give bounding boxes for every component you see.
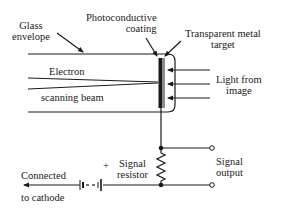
junction-dot-top [159, 146, 164, 151]
label-transparent-metal-target: Transparent metal target [185, 28, 261, 50]
target-pointer [165, 41, 181, 56]
label-battery-plus: + [103, 160, 109, 171]
label-line: Glass [12, 20, 50, 31]
photoconductive-target-plate [159, 58, 163, 108]
label-glass-envelope: Glass envelope [12, 20, 50, 42]
label-to-cathode: to cathode [21, 192, 64, 203]
label-line: coating [86, 23, 157, 34]
output-terminal-top [210, 146, 215, 151]
label-line: resistor [117, 169, 148, 180]
label-scanning-beam: scanning beam [41, 92, 104, 103]
label-connected: Connected [21, 170, 66, 181]
label-line: image [216, 85, 262, 96]
label-line: output [216, 167, 243, 178]
electron-beam-lower [28, 83, 158, 89]
signal-resistor-symbol [157, 148, 165, 185]
label-photoconductive-coating: Photoconductive coating [86, 12, 157, 34]
output-terminal-bottom [210, 183, 215, 188]
coating-pointer [146, 38, 157, 56]
label-light-from-image: Light from image [216, 74, 262, 96]
label-signal-output: Signal output [216, 156, 243, 178]
label-line: Light from [216, 74, 262, 85]
junction-dot-bottom [159, 183, 164, 188]
label-line: Signal [216, 156, 243, 167]
electron-beam-upper [28, 78, 158, 82]
label-line: target [185, 39, 261, 50]
label-signal-resistor: Signal resistor [117, 158, 148, 180]
label-line: Transparent metal [185, 28, 261, 39]
glass-envelope-pointer [57, 33, 83, 52]
label-electron: Electron [49, 66, 85, 77]
label-line: Signal [117, 158, 148, 169]
label-line: Photoconductive [86, 12, 157, 23]
label-line: envelope [12, 31, 50, 42]
